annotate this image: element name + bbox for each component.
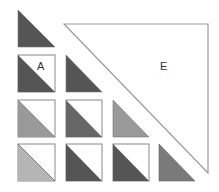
cell-r0c0-triangle [18,10,55,47]
cell-a-label: A [37,60,45,72]
region-e-label: E [160,60,167,72]
cell-r1c1-triangle [66,55,102,92]
block-matrix-diagram: E A [0,0,219,192]
